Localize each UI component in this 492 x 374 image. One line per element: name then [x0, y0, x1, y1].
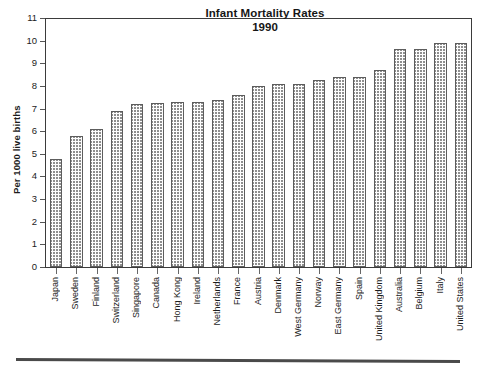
bar [192, 102, 205, 267]
x-axis-tick-label: France [233, 277, 242, 305]
x-axis-tick-label: Finland [92, 277, 101, 307]
x-axis-tick-label: United Kingdom [375, 277, 384, 341]
x-axis-tick-label: Canada [152, 277, 161, 309]
y-axis-tick-label: 9 [32, 56, 37, 69]
y-axis-tick-mark [40, 86, 45, 87]
y-axis-tick: 0 [0, 267, 45, 268]
bar [212, 100, 225, 268]
y-axis-tick-label: 2 [32, 215, 37, 228]
x-axis-tick-label: Belgium [415, 277, 424, 310]
x-axis-tick-mark [76, 268, 77, 274]
x-axis-tick-mark [400, 268, 401, 274]
bar [414, 49, 427, 267]
y-axis-tick: 6 [0, 131, 45, 132]
x-axis-tick-label: Denmark [274, 277, 283, 314]
y-axis-label: Per 1000 live births [6, 60, 26, 240]
bar [455, 43, 468, 267]
bar [131, 104, 144, 267]
bar [353, 77, 366, 267]
y-axis-tick: 10 [0, 41, 45, 42]
x-axis-tick-mark [339, 268, 340, 274]
x-axis-tick-label: Singapore [132, 277, 141, 318]
y-axis-tick: 8 [0, 86, 45, 87]
x-axis-tick-label: Switzerland [112, 277, 121, 324]
bar [70, 136, 83, 267]
x-axis-tick-label: Hong Kong [173, 277, 182, 322]
x-axis-tick-label: Spain [355, 277, 364, 300]
x-axis-tick-mark [238, 268, 239, 274]
y-axis-tick-mark [40, 176, 45, 177]
bar [111, 111, 124, 267]
x-axis-tick-mark [299, 268, 300, 274]
y-axis-tick: 11 [0, 18, 45, 19]
y-axis-tick-label: 1 [32, 237, 37, 250]
bar [313, 80, 326, 267]
bar [374, 70, 387, 267]
y-axis-tick: 5 [0, 154, 45, 155]
y-axis-tick: 3 [0, 199, 45, 200]
y-axis-tick-mark [40, 18, 45, 19]
y-axis-tick-label: 4 [32, 169, 37, 182]
bar-series [46, 18, 471, 267]
x-axis-tick-mark [117, 268, 118, 274]
y-axis-tick-mark [40, 199, 45, 200]
y-axis-tick: 2 [0, 222, 45, 223]
x-axis-tick-mark [218, 268, 219, 274]
y-axis-tick-label: 6 [32, 124, 37, 137]
x-axis-tick-mark [97, 268, 98, 274]
chart-figure: Per 1000 live births Infant Mortality Ra… [0, 0, 492, 374]
y-axis-tick-mark [40, 131, 45, 132]
x-axis-tick-mark [56, 268, 57, 274]
x-axis-tick-label: Austria [254, 277, 263, 305]
y-axis-tick-mark [40, 63, 45, 64]
bar [394, 49, 407, 267]
y-axis-tick-mark [40, 222, 45, 223]
bar [272, 84, 285, 267]
y-axis-tick-label: 10 [26, 34, 37, 47]
bar [50, 159, 63, 267]
x-axis-tick-mark [360, 268, 361, 274]
x-axis-tick-mark [380, 268, 381, 274]
y-axis-tick: 1 [0, 244, 45, 245]
y-axis-tick: 9 [0, 63, 45, 64]
y-axis-tick-mark [40, 267, 45, 268]
x-axis: JapanSwedenFinlandSwitzerlandSingaporeCa… [46, 268, 471, 363]
bar [151, 103, 164, 267]
bar [171, 102, 184, 267]
x-axis-tick-label: Japan [51, 277, 60, 302]
x-axis-tick-mark [137, 268, 138, 274]
bar [293, 84, 306, 267]
bar [232, 95, 245, 267]
y-axis-tick-label: 7 [32, 102, 37, 115]
bar [333, 77, 346, 267]
x-axis-tick-label: Netherlands [213, 277, 222, 326]
x-axis-tick-label: United States [456, 277, 465, 331]
y-axis-tick-label: 8 [32, 79, 37, 92]
x-axis-tick-label: West Germany [294, 277, 303, 337]
x-axis-tick-mark [461, 268, 462, 274]
x-axis-tick-label: Australia [395, 277, 404, 312]
bar [434, 43, 447, 267]
x-axis-tick-mark [259, 268, 260, 274]
y-axis-tick-label: 5 [32, 147, 37, 160]
x-axis-tick-mark [441, 268, 442, 274]
x-axis-tick-mark [420, 268, 421, 274]
y-axis-tick-mark [40, 41, 45, 42]
x-axis-tick-label: Ireland [193, 277, 202, 305]
y-axis-tick-mark [40, 109, 45, 110]
y-axis-tick-mark [40, 154, 45, 155]
x-axis-tick-mark [157, 268, 158, 274]
y-axis-tick: 4 [0, 176, 45, 177]
x-axis-tick-label: East Germany [334, 277, 343, 335]
x-axis-tick-mark [279, 268, 280, 274]
y-axis-tick: 7 [0, 109, 45, 110]
y-axis-tick-label: 11 [27, 11, 37, 24]
bar [252, 86, 265, 267]
x-axis-tick-mark [198, 268, 199, 274]
bar [90, 129, 103, 267]
x-axis-tick-label: Norway [314, 277, 323, 308]
y-axis-tick-mark [40, 244, 45, 245]
x-axis-tick-label: Italy [436, 277, 445, 294]
x-axis-tick-mark [178, 268, 179, 274]
x-axis-tick-label: Sweden [71, 277, 80, 310]
